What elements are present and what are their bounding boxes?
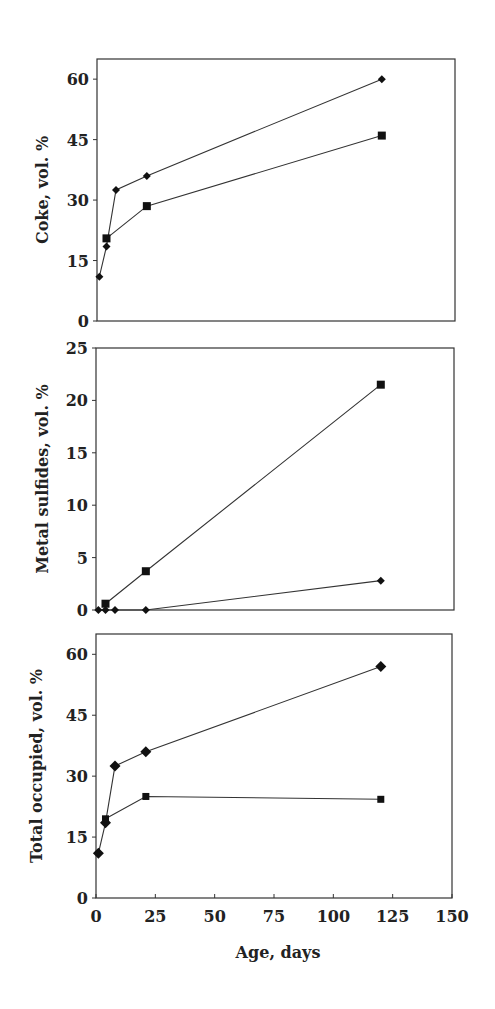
plot-frame [97, 59, 455, 321]
square-marker [142, 567, 150, 575]
diamond-marker [111, 606, 119, 614]
x-tick-label: 150 [435, 907, 468, 926]
y-tick-label: 0 [77, 601, 88, 620]
y-tick-label: 0 [77, 889, 88, 908]
x-tick-label: 100 [317, 907, 350, 926]
series-line [98, 666, 380, 853]
square-marker [142, 793, 149, 800]
y-tick-label: 30 [66, 767, 88, 786]
y-tick-label: 45 [66, 706, 88, 725]
diamond-marker [377, 577, 385, 585]
series-group [94, 381, 384, 614]
square-marker [102, 815, 109, 822]
series-line [98, 581, 380, 610]
diamond-marker [93, 848, 104, 859]
plot-frame [96, 634, 452, 898]
series-group [95, 75, 385, 281]
x-ticks: 0255075100125150 [90, 894, 468, 926]
y-ticks: 015304560 [66, 645, 96, 908]
x-tick-label: 25 [144, 907, 166, 926]
y-ticks: 0510152025 [66, 339, 96, 620]
y-tick-label: 25 [66, 339, 88, 358]
y-tick-label: 5 [77, 549, 88, 568]
square-marker [143, 202, 151, 210]
y-axis-title: Coke, vol. % [33, 136, 52, 244]
y-tick-label: 0 [78, 312, 89, 331]
diamond-marker [109, 761, 120, 772]
square-marker [377, 796, 384, 803]
y-tick-label: 10 [66, 496, 88, 515]
panel-coke: 015304560 Coke, vol. % [33, 59, 455, 331]
diamond-marker [142, 606, 150, 614]
panel-total-occupied: 015304560 0255075100125150 Total occupie… [27, 634, 469, 962]
diamond-marker [140, 746, 151, 757]
y-axis-title: Metal sulfides, vol. % [33, 384, 52, 574]
x-tick-label: 0 [90, 907, 101, 926]
x-axis-title: Age, days [235, 943, 321, 962]
y-tick-label: 15 [66, 828, 88, 847]
series-group [93, 661, 386, 859]
y-tick-label: 30 [67, 191, 89, 210]
square-marker [102, 234, 110, 242]
square-marker [378, 132, 386, 140]
y-tick-label: 45 [67, 131, 89, 150]
square-marker [101, 600, 109, 608]
y-axis-title: Total occupied, vol. % [27, 669, 46, 863]
y-tick-label: 60 [66, 645, 88, 664]
y-tick-label: 60 [67, 70, 89, 89]
diamond-marker [112, 186, 120, 194]
chart-figure: 015304560 Coke, vol. % 0510152025 Metal … [0, 0, 495, 1009]
x-tick-label: 50 [204, 907, 226, 926]
diamond-marker [378, 75, 386, 83]
diamond-marker [375, 661, 386, 672]
x-tick-label: 125 [376, 907, 409, 926]
y-tick-label: 20 [66, 391, 88, 410]
x-tick-label: 75 [263, 907, 285, 926]
square-marker [377, 381, 385, 389]
diamond-marker [143, 172, 151, 180]
y-tick-label: 15 [66, 444, 88, 463]
y-tick-label: 15 [67, 252, 89, 271]
panel-metal-sulfides: 0510152025 Metal sulfides, vol. % [33, 339, 454, 620]
series-line [106, 136, 381, 239]
diamond-marker [102, 242, 110, 250]
y-ticks: 015304560 [67, 70, 97, 331]
